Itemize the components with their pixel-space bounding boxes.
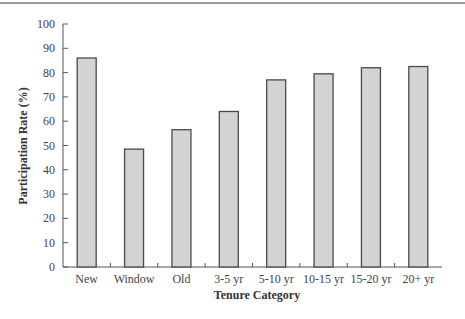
bar-5-10-yr	[267, 80, 286, 267]
x-tick-label: Window	[114, 272, 155, 286]
bar-10-15-yr	[314, 74, 333, 267]
y-tick-label: 60	[43, 114, 55, 128]
x-tick-label: New	[75, 272, 98, 286]
x-tick-label: 10-15 yr	[303, 272, 344, 286]
y-axis: 0102030405060708090100	[37, 17, 68, 274]
x-axis-title: Tenure Category	[214, 288, 300, 302]
bar-chart: 0102030405060708090100 NewWindowOld3-5 y…	[0, 0, 465, 319]
y-tick-label: 20	[43, 211, 55, 225]
x-axis: NewWindowOld3-5 yr5-10 yr10-15 yr15-20 y…	[63, 263, 442, 286]
x-tick-label: 5-10 yr	[259, 272, 294, 286]
y-axis-title: Participation Rate (%)	[16, 87, 30, 204]
y-tick-label: 40	[43, 163, 55, 177]
y-tick-label: 10	[43, 236, 55, 250]
bar-20-yr	[409, 67, 428, 267]
x-tick-label: 3-5 yr	[214, 272, 243, 286]
x-tick-label: 15-20 yr	[350, 272, 391, 286]
bar-15-20-yr	[361, 68, 380, 267]
bar-new	[77, 58, 96, 267]
y-tick-label: 80	[43, 66, 55, 80]
y-tick-label: 70	[43, 90, 55, 104]
y-tick-label: 100	[37, 17, 55, 31]
y-tick-label: 50	[43, 139, 55, 153]
y-tick-label: 0	[49, 260, 55, 274]
x-tick-label: Old	[172, 272, 190, 286]
bar-3-5-yr	[219, 111, 238, 267]
bars	[77, 58, 428, 267]
y-tick-label: 30	[43, 187, 55, 201]
y-tick-label: 90	[43, 41, 55, 55]
bar-window	[125, 149, 144, 267]
bar-old	[172, 130, 191, 267]
x-tick-label: 20+ yr	[402, 272, 434, 286]
